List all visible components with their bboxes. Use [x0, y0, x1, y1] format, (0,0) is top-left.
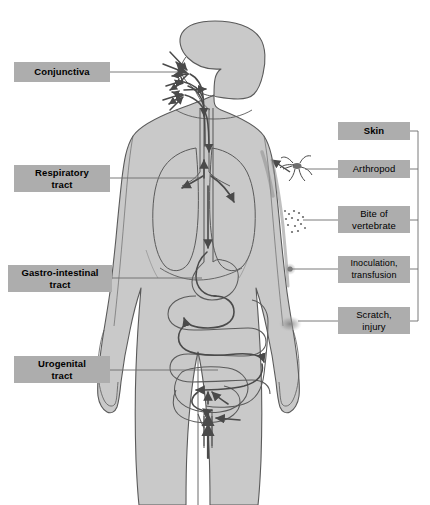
- label-scratch-text: Scratch, injury: [356, 309, 392, 332]
- label-skin-heading: Skin: [338, 122, 410, 140]
- label-inoculation-transfusion: Inoculation, transfusion: [338, 256, 410, 283]
- label-conjunctiva-text: Conjunctiva: [34, 66, 89, 78]
- label-conjunctiva: Conjunctiva: [14, 62, 110, 82]
- label-urogenital-text: Urogenital tract: [38, 358, 86, 381]
- label-inoculation-text: Inoculation, transfusion: [350, 258, 397, 281]
- label-arthropod-text: Arthropod: [353, 163, 396, 175]
- label-bite-of-vertebrate: Bite of vertebrate: [338, 206, 410, 233]
- skin-bracket: [410, 131, 418, 321]
- label-respiratory-tract: Respiratory tract: [14, 165, 110, 192]
- label-bite-text: Bite of vertebrate: [352, 208, 396, 231]
- label-respiratory-text: Respiratory tract: [35, 167, 89, 190]
- label-skin-text: Skin: [364, 125, 384, 137]
- label-gastro-text: Gastro-intestinal tract: [21, 267, 98, 290]
- label-scratch-injury: Scratch, injury: [338, 307, 410, 334]
- label-urogenital-tract: Urogenital tract: [14, 356, 110, 383]
- label-gastrointestinal-tract: Gastro-intestinal tract: [8, 265, 112, 292]
- label-arthropod: Arthropod: [338, 160, 410, 178]
- infection-routes-figure: Conjunctiva Respiratory tract Gastro-int…: [0, 0, 430, 505]
- scratch-mark: [278, 316, 302, 332]
- bite-marks: [284, 210, 306, 233]
